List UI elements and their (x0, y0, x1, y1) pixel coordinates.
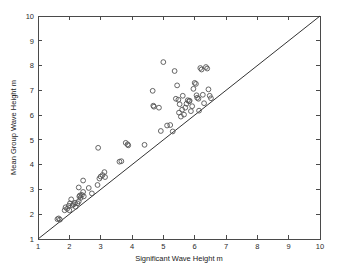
y-tick-label-4: 4 (30, 160, 34, 169)
y-tick-label-10: 10 (26, 12, 34, 21)
x-tick-label-10: 10 (316, 242, 324, 251)
data-point-0-76 (204, 65, 209, 70)
data-point-0-22 (76, 185, 81, 190)
x-tick-label-2: 2 (67, 242, 71, 251)
data-point-0-44 (161, 60, 166, 65)
data-point-0-24 (86, 186, 91, 191)
x-tick-label-3: 3 (99, 242, 103, 251)
data-point-0-65 (191, 86, 196, 91)
x-tick-label-8: 8 (255, 242, 259, 251)
y-tick-label-7: 7 (30, 86, 34, 95)
data-point-0-39 (150, 88, 155, 93)
scatter-plot-figure: 1234567891012345678910Significant Wave H… (0, 0, 345, 278)
wave-height-scatter-chart: 1234567891012345678910Significant Wave H… (0, 0, 345, 278)
x-axis-title: Significant Wave Height m (135, 254, 223, 263)
x-tick-label-7: 7 (224, 242, 228, 251)
data-point-0-77 (205, 66, 210, 71)
data-point-0-78 (206, 87, 211, 92)
data-point-0-56 (180, 93, 185, 98)
data-point-0-75 (202, 101, 207, 106)
data-point-0-72 (198, 66, 203, 71)
data-point-0-26 (95, 183, 100, 188)
data-point-0-43 (158, 129, 163, 134)
data-point-0-53 (177, 102, 182, 107)
x-tick-label-6: 6 (193, 242, 197, 251)
data-point-0-23 (81, 178, 86, 183)
y-tick-label-3: 3 (30, 185, 34, 194)
y-tick-label-5: 5 (30, 136, 34, 145)
x-tick-label-1: 1 (36, 242, 40, 251)
data-point-0-42 (157, 105, 162, 110)
data-point-0-46 (168, 123, 173, 128)
data-point-0-48 (172, 69, 177, 74)
y-tick-label-2: 2 (30, 210, 34, 219)
y-tick-label-8: 8 (30, 61, 34, 70)
x-tick-label-4: 4 (130, 242, 134, 251)
data-point-0-38 (142, 142, 147, 147)
x-tick-label-5: 5 (161, 242, 165, 251)
y-tick-label-6: 6 (30, 111, 34, 120)
data-point-0-25 (89, 191, 94, 196)
data-point-0-63 (189, 109, 194, 114)
data-point-0-74 (200, 92, 205, 97)
data-point-0-20 (81, 190, 86, 195)
reference-line-1to1 (38, 16, 320, 239)
x-tick-label-9: 9 (287, 242, 291, 251)
data-point-0-67 (194, 81, 199, 86)
data-point-0-50 (175, 83, 180, 88)
data-point-0-27 (96, 145, 101, 150)
data-point-0-64 (190, 104, 195, 109)
y-tick-label-9: 9 (30, 37, 34, 46)
y-axis-title: Mean Group Wave Height m (9, 80, 18, 175)
y-tick-label-1: 1 (30, 235, 34, 244)
